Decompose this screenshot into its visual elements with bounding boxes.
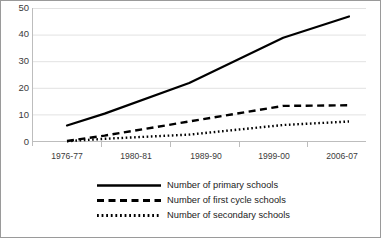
series-line-primary-schools [67,17,349,126]
x-axis-ticks [102,142,308,148]
series-line-secondary-schools [67,122,349,142]
chart-frame: 50 40 30 20 10 0 1976-77 1980-81 1989-90… [0,0,381,238]
legend-label-first-cycle-schools: Number of first cycle schools [167,195,286,206]
legend-label-primary-schools: Number of primary schools [167,180,278,191]
axis-lines [32,8,366,146]
line-chart: 50 40 30 20 10 0 1976-77 1980-81 1989-90… [1,1,380,237]
legend-label-secondary-schools: Number of secondary schools [167,210,290,221]
